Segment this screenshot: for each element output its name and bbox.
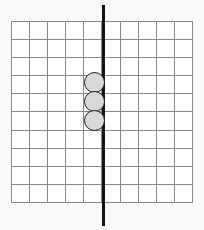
counter-1	[84, 72, 105, 93]
grid-cell-r5-c6	[102, 94, 120, 112]
grid-cell-r7-c8	[139, 131, 157, 149]
grid-cell-r8-c6	[102, 149, 120, 167]
grid-cell-r8-c3	[48, 149, 66, 167]
grid-cell-r4-c10	[175, 76, 193, 94]
grid-cell-r9-c8	[139, 167, 157, 185]
grid-cell-r6-c10	[175, 112, 193, 130]
grid-cell-r1-c3	[48, 22, 66, 40]
counter-2	[84, 91, 105, 112]
grid-cell-r2-c5	[84, 40, 102, 58]
grid-cell-r5-c1	[12, 94, 30, 112]
grid-cell-r9-c3	[48, 167, 66, 185]
grid-cell-r10-c10	[175, 185, 193, 203]
grid-cell-r10-c4	[66, 185, 84, 203]
grid-cell-r1-c7	[121, 22, 139, 40]
grid-cell-r8-c7	[121, 149, 139, 167]
grid-cell-r9-c4	[66, 167, 84, 185]
grid-cell-r4-c6	[102, 76, 120, 94]
grid-cell-r8-c9	[157, 149, 175, 167]
grid-cell-r10-c8	[139, 185, 157, 203]
grid-cell-r6-c7	[121, 112, 139, 130]
grid-cell-r3-c6	[102, 58, 120, 76]
grid-cell-r1-c9	[157, 22, 175, 40]
grid-cell-r2-c8	[139, 40, 157, 58]
grid-cell-r3-c10	[175, 58, 193, 76]
grid-cell-r3-c7	[121, 58, 139, 76]
grid-cell-r10-c3	[48, 185, 66, 203]
grid-cell-r1-c8	[139, 22, 157, 40]
grid-cell-r10-c6	[102, 185, 120, 203]
grid-cell-r4-c2	[30, 76, 48, 94]
grid-cell-r3-c8	[139, 58, 157, 76]
grid-cell-r4-c4	[66, 76, 84, 94]
grid-cell-r8-c2	[30, 149, 48, 167]
grid-cell-r10-c1	[12, 185, 30, 203]
grid-cell-r9-c6	[102, 167, 120, 185]
grid-cell-r1-c4	[66, 22, 84, 40]
grid-cell-r7-c9	[157, 131, 175, 149]
grid-cell-r9-c7	[121, 167, 139, 185]
grid-cell-r4-c8	[139, 76, 157, 94]
grid-cell-r2-c6	[102, 40, 120, 58]
grid-cell-r9-c2	[30, 167, 48, 185]
grid-cell-r6-c1	[12, 112, 30, 130]
grid-cell-r5-c3	[48, 94, 66, 112]
grid-cell-r6-c6	[102, 112, 120, 130]
grid-cell-r3-c2	[30, 58, 48, 76]
grid-cell-r9-c10	[175, 167, 193, 185]
grid-cell-r8-c5	[84, 149, 102, 167]
grid-cell-r6-c2	[30, 112, 48, 130]
grid-cell-r2-c10	[175, 40, 193, 58]
grid-cell-r1-c6	[102, 22, 120, 40]
grid-cell-r2-c1	[12, 40, 30, 58]
grid-cell-r5-c10	[175, 94, 193, 112]
grid-cell-r2-c9	[157, 40, 175, 58]
grid-cell-r2-c7	[121, 40, 139, 58]
grid-cell-r7-c7	[121, 131, 139, 149]
grid-cell-r6-c8	[139, 112, 157, 130]
grid-cell-r5-c7	[121, 94, 139, 112]
grid-cell-r8-c4	[66, 149, 84, 167]
grid-cell-r9-c5	[84, 167, 102, 185]
grid-cell-r8-c1	[12, 149, 30, 167]
grid-cell-r6-c9	[157, 112, 175, 130]
symmetry-figure	[0, 0, 204, 230]
grid-cell-r7-c1	[12, 131, 30, 149]
grid-cell-r7-c10	[175, 131, 193, 149]
grid-cell-r10-c7	[121, 185, 139, 203]
grid-cell-r6-c3	[48, 112, 66, 130]
grid-cell-r2-c3	[48, 40, 66, 58]
grid-cell-r7-c2	[30, 131, 48, 149]
grid-cell-r10-c5	[84, 185, 102, 203]
grid-cell-r7-c4	[66, 131, 84, 149]
grid-cell-r3-c9	[157, 58, 175, 76]
grid-cell-r8-c8	[139, 149, 157, 167]
grid-cell-r4-c1	[12, 76, 30, 94]
grid-cell-r10-c9	[157, 185, 175, 203]
grid-cell-r4-c3	[48, 76, 66, 94]
grid-cell-r7-c6	[102, 131, 120, 149]
grid-cell-r4-c7	[121, 76, 139, 94]
grid-cell-r9-c1	[12, 167, 30, 185]
counter-3	[84, 110, 105, 131]
grid-cell-r1-c5	[84, 22, 102, 40]
grid-cell-r3-c3	[48, 58, 66, 76]
grid-cell-r4-c9	[157, 76, 175, 94]
grid-cell-r1-c2	[30, 22, 48, 40]
grid-cell-r9-c9	[157, 167, 175, 185]
grid-cell-r2-c4	[66, 40, 84, 58]
grid-cell-r5-c4	[66, 94, 84, 112]
grid-cell-r1-c10	[175, 22, 193, 40]
grid-cell-r7-c3	[48, 131, 66, 149]
grid-cell-r3-c1	[12, 58, 30, 76]
grid-cell-r8-c10	[175, 149, 193, 167]
grid-cell-r7-c5	[84, 131, 102, 149]
grid-cell-r2-c2	[30, 40, 48, 58]
grid-cell-r5-c9	[157, 94, 175, 112]
grid-cell-r3-c4	[66, 58, 84, 76]
grid-cell-r10-c2	[30, 185, 48, 203]
grid-cell-r1-c1	[12, 22, 30, 40]
grid-cell-r5-c8	[139, 94, 157, 112]
grid-cell-r6-c4	[66, 112, 84, 130]
grid-cell-r5-c2	[30, 94, 48, 112]
